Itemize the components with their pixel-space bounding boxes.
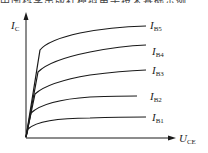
curve-b2 <box>26 96 137 137</box>
curve-b1 <box>26 117 146 137</box>
curve-b5 <box>26 26 146 137</box>
curve-label-b4: IB4 <box>151 45 164 59</box>
y-axis-arrow-icon <box>24 12 29 20</box>
curve-b4 <box>26 45 146 137</box>
x-axis-arrow-icon <box>168 136 176 141</box>
y-axis-label: IC <box>10 19 20 33</box>
output-characteristics-diagram: IC UCE IB5IB4IB3IB2IB1 <box>0 0 208 153</box>
curve-label-b5: IB5 <box>149 19 162 33</box>
curve-label-b2: IB2 <box>149 90 162 104</box>
x-axis-label: UCE <box>179 132 196 146</box>
curve-label-b1: IB1 <box>151 111 164 125</box>
curve-label-b3: IB3 <box>151 64 164 78</box>
curve-b3 <box>26 70 146 137</box>
